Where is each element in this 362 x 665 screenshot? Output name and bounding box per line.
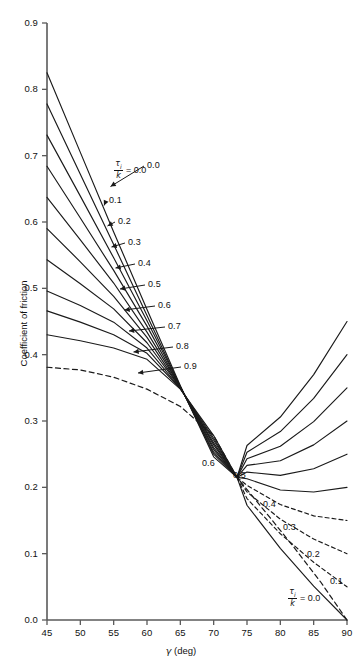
curve-label-lower-0.5: 0.5 — [233, 471, 246, 480]
leader-line-0.7 — [129, 327, 165, 331]
y-axis-title: Coefficient of friction — [18, 254, 29, 394]
curve-0.0-left — [47, 73, 237, 478]
curve-label-lower-0.6: 0.6 — [202, 459, 215, 468]
tau-numerator-lower: τi — [288, 588, 297, 598]
leader-arrowhead-0.1 — [104, 200, 109, 206]
curve-0.2-right — [237, 477, 347, 553]
envelope-path — [47, 367, 347, 620]
y-tick-label: 0.2 — [0, 482, 38, 492]
figure-container: 0.00.10.20.30.40.50.60.70.80.9 455055606… — [0, 0, 362, 665]
y-tick-label: 0.3 — [0, 416, 38, 426]
curve-0.8-left — [47, 311, 237, 477]
curve-label-upper-0.2: 0.2 — [118, 217, 131, 226]
k-denominator-lower: k — [289, 599, 296, 608]
curve-label-lower-0.3: 0.3 — [283, 523, 296, 532]
tau-over-k-fraction-lower: τi k — [288, 588, 297, 608]
curve-label-upper-0.5: 0.5 — [148, 280, 161, 289]
leader-arrowhead-0.3 — [112, 243, 118, 248]
curve-0.6-right — [237, 421, 347, 477]
tau-over-k-fraction-upper: τi k — [114, 160, 123, 180]
envelope-curve — [47, 367, 347, 620]
curve-label-upper-0.8: 0.8 — [176, 342, 189, 351]
ratio-tag-upper: τi k = 0.0 — [114, 160, 146, 180]
curve-0.5-right — [237, 454, 347, 477]
x-axis-title: γ (deg) — [0, 645, 362, 656]
curve-label-upper-0.1: 0.1 — [109, 196, 122, 205]
curve-0.2-left — [47, 135, 237, 477]
x-tick-label: 65 — [166, 628, 194, 638]
y-tick-label: 0.9 — [0, 18, 38, 28]
y-tick-label: 0.8 — [0, 84, 38, 94]
x-tick-label: 75 — [233, 628, 261, 638]
curve-label-lower-0.4: 0.4 — [263, 500, 276, 509]
curve-label-lower-0.2: 0.2 — [307, 550, 320, 559]
y-tick-label: 0.7 — [0, 151, 38, 161]
curve-label-upper-0.9: 0.9 — [184, 362, 197, 371]
curve-0.7-left — [47, 291, 237, 477]
x-tick-label: 70 — [200, 628, 228, 638]
ratio-equals-upper: = 0.0 — [125, 165, 146, 175]
x-tick-label: 90 — [333, 628, 361, 638]
x-tick-label: 45 — [33, 628, 61, 638]
y-tick-label: 0.0 — [0, 615, 38, 625]
x-tick-label: 55 — [100, 628, 128, 638]
curve-label-upper-0.0: 0.0 — [147, 161, 160, 170]
curve-0.9-left — [47, 335, 237, 478]
x-tick-label: 80 — [266, 628, 294, 638]
chart-plot-area — [0, 0, 362, 665]
y-tick-label: 0.1 — [0, 549, 38, 559]
x-tick-label: 50 — [66, 628, 94, 638]
data-curves — [47, 73, 347, 620]
x-axis-unit: (deg) — [174, 645, 196, 656]
curve-0.1-right — [237, 477, 347, 586]
curve-label-upper-0.7: 0.7 — [168, 322, 181, 331]
curve-0.4-right — [237, 477, 347, 492]
curve-0.9-right — [237, 322, 347, 478]
curve-0.8-right — [237, 355, 347, 478]
axis-spines — [47, 23, 347, 620]
y-tick-label: 0.6 — [0, 217, 38, 227]
x-tick-label: 60 — [133, 628, 161, 638]
k-denominator: k — [115, 171, 122, 180]
x-tick-label: 85 — [300, 628, 328, 638]
ratio-equals-lower: = 0.0 — [299, 593, 320, 603]
ratio-tag-lower: τi k = 0.0 — [288, 588, 320, 608]
curve-label-upper-0.3: 0.3 — [128, 238, 141, 247]
leader-arrowhead-0.8 — [134, 349, 139, 354]
curve-label-upper-0.6: 0.6 — [158, 301, 171, 310]
curve-label-lower-0.1: 0.1 — [330, 577, 343, 586]
leader-arrowhead-0.9 — [138, 370, 144, 375]
curve-label-upper-0.4: 0.4 — [138, 259, 151, 268]
leader-arrowhead-0.4 — [116, 264, 122, 269]
gamma-symbol: γ — [166, 645, 172, 656]
tau-numerator: τi — [114, 160, 123, 170]
